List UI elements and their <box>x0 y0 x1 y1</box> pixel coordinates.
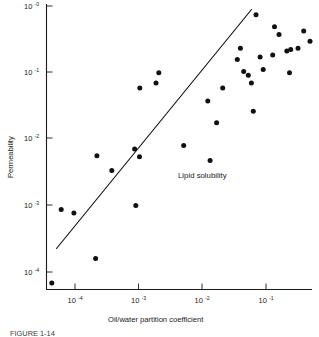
data-point <box>109 168 114 173</box>
data-point <box>154 81 159 86</box>
data-point <box>137 86 142 91</box>
y-axis-tickmarks <box>47 6 53 272</box>
x-tick-exponent-2: -2 <box>205 295 210 301</box>
data-points <box>49 12 312 285</box>
svg-text:10: 10 <box>68 296 76 305</box>
data-point <box>287 70 292 75</box>
data-point <box>220 86 225 91</box>
figure-caption: FIGURE 1-14 <box>10 329 55 337</box>
y-tick-exponent-3: -3 <box>35 200 40 206</box>
data-point <box>241 69 246 74</box>
x-tick-exponent-3: -1 <box>269 295 274 301</box>
x-tick-exponent-1: -3 <box>142 295 147 301</box>
data-point <box>181 143 186 148</box>
x-tick-label-1: 10 -3 <box>131 295 146 305</box>
data-point <box>49 281 54 286</box>
svg-text:10: 10 <box>24 2 32 11</box>
y-tick-label-4: 10 -4 <box>24 267 39 277</box>
data-point <box>277 32 282 37</box>
data-point <box>270 53 275 58</box>
data-point <box>254 12 259 17</box>
data-point <box>205 99 210 104</box>
scatter-plot: 10 -0 10 -1 10 -2 10 -3 10 -4 10 <box>0 0 319 337</box>
data-point <box>251 109 256 114</box>
y-tick-label-3: 10 -3 <box>24 200 39 210</box>
data-point <box>71 211 76 216</box>
figure-container: 10 -0 10 -1 10 -2 10 -3 10 -4 10 <box>0 0 319 337</box>
x-tick-exponent-0: -4 <box>78 295 83 301</box>
data-point <box>258 55 263 60</box>
data-point <box>94 153 99 158</box>
regression-line <box>57 10 252 249</box>
y-tick-exponent-2: -2 <box>35 133 40 139</box>
svg-text:10: 10 <box>24 201 32 210</box>
x-axis-tickmarks <box>75 284 266 290</box>
svg-text:10: 10 <box>24 68 32 77</box>
x-tick-label-2: 10 -2 <box>195 295 210 305</box>
data-point <box>133 203 138 208</box>
svg-text:10: 10 <box>195 296 203 305</box>
x-axis-title: Oil/water partition coefficient <box>108 315 204 324</box>
data-point <box>246 73 251 78</box>
data-point <box>288 47 293 52</box>
y-tick-exponent-0: -0 <box>35 1 40 7</box>
data-point <box>301 29 306 34</box>
data-point <box>308 39 313 44</box>
data-point <box>235 57 240 62</box>
y-axis-title: Permeability <box>6 136 15 178</box>
data-point <box>296 46 301 51</box>
data-point <box>59 207 64 212</box>
y-tick-label-1: 10 -1 <box>24 67 39 77</box>
data-point <box>272 24 277 29</box>
y-tick-exponent-4: -4 <box>35 267 40 273</box>
data-point <box>208 158 213 163</box>
data-point <box>238 46 243 51</box>
data-point <box>249 81 254 86</box>
data-point <box>132 147 137 152</box>
y-tick-label-2: 10 -2 <box>24 133 39 143</box>
y-tick-exponent-1: -1 <box>35 67 40 73</box>
data-point <box>261 67 266 72</box>
svg-text:10: 10 <box>24 134 32 143</box>
y-tick-label-0: 10 -0 <box>24 1 39 11</box>
data-point <box>214 120 219 125</box>
axis-spines <box>47 4 313 290</box>
data-point <box>156 70 161 75</box>
svg-text:10: 10 <box>24 268 32 277</box>
svg-text:10: 10 <box>259 296 267 305</box>
y-axis-tick-labels: 10 -0 10 -1 10 -2 10 -3 10 -4 <box>24 1 39 277</box>
data-point <box>93 256 98 261</box>
data-point <box>137 154 142 159</box>
x-tick-label-0: 10 -4 <box>68 295 83 305</box>
x-axis-tick-labels: 10 -4 10 -3 10 -2 10 -1 <box>68 295 274 305</box>
x-tick-label-3: 10 -1 <box>259 295 274 305</box>
svg-text:10: 10 <box>131 296 139 305</box>
lipid-solubility-annotation: Lipid solubility <box>178 171 227 180</box>
